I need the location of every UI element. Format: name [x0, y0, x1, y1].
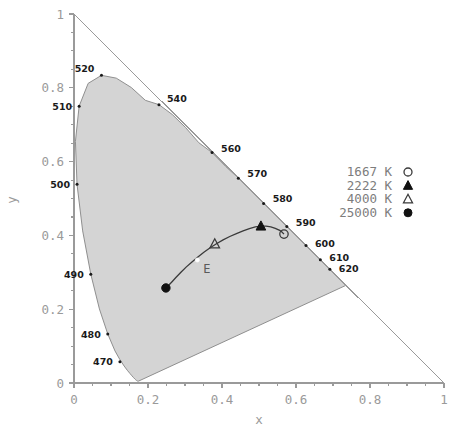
- data-marker-25000-k: [162, 284, 170, 292]
- wavelength-label: 560: [221, 143, 241, 154]
- wavelength-label: 490: [64, 269, 84, 280]
- wavelength-tick-dot: [262, 202, 265, 205]
- wavelength-label: 570: [247, 168, 267, 179]
- legend-marker-open-triangle: [403, 194, 412, 203]
- wavelength-tick-dot: [78, 105, 81, 108]
- legend: 1667 K2222 K4000 K25000 K: [339, 164, 412, 220]
- wavelength-tick-dot: [237, 177, 240, 180]
- wavelength-label: 580: [273, 193, 293, 204]
- wavelength-label: 520: [75, 63, 95, 74]
- wavelength-tick-dot: [100, 74, 103, 77]
- y-tick-label: 0.2: [41, 302, 64, 317]
- chromaticity-diagram-figure: 00.20.40.60.8100.20.40.60.81 47048049050…: [0, 0, 462, 435]
- wavelength-label: 480: [81, 329, 101, 340]
- legend-marker-open-circle: [404, 168, 412, 176]
- x-axis-title: x: [255, 412, 263, 427]
- y-tick-label: 0.4: [41, 228, 64, 243]
- white-point-marker: [195, 258, 199, 262]
- wavelength-tick-dot: [157, 103, 160, 106]
- x-tick-label: 0.6: [285, 392, 308, 407]
- wavelength-label: 500: [50, 179, 70, 190]
- wavelength-tick-dot: [89, 273, 92, 276]
- wavelength-label: 510: [52, 101, 72, 112]
- wavelength-tick-dot: [285, 225, 288, 228]
- wavelength-label: 600: [315, 238, 335, 249]
- y-tick-label: 1: [56, 7, 64, 22]
- legend-label: 25000 K: [339, 205, 392, 220]
- wavelength-label: 540: [167, 93, 187, 104]
- x-tick-label: 1: [440, 392, 448, 407]
- y-tick-label: 0.8: [41, 80, 64, 95]
- wavelength-label: 620: [339, 263, 359, 274]
- wavelength-tick-dot: [304, 244, 307, 247]
- wavelength-tick-dot: [319, 258, 322, 261]
- x-tick-label: 0.8: [359, 392, 382, 407]
- legend-marker-filled-circle: [404, 209, 412, 217]
- wavelength-tick-dot: [106, 333, 109, 336]
- x-tick-label: 0.4: [211, 392, 234, 407]
- wavelength-tick-dot: [211, 151, 214, 154]
- y-axis-title: y: [4, 196, 19, 204]
- wavelength-tick-dot: [328, 268, 331, 271]
- y-tick-label: 0: [56, 376, 64, 391]
- cie-chromaticity-plot: 00.20.40.60.8100.20.40.60.81 47048049050…: [0, 0, 462, 435]
- x-tick-label: 0: [70, 392, 78, 407]
- wavelength-tick-dot: [76, 183, 79, 186]
- wavelength-label: 590: [296, 217, 316, 228]
- legend-marker-filled-triangle: [403, 181, 412, 190]
- wavelength-label: 470: [93, 356, 113, 367]
- x-tick-label: 0.2: [137, 392, 160, 407]
- y-tick-label: 0.6: [41, 154, 64, 169]
- white-point-label: E: [203, 262, 210, 276]
- wavelength-label: 610: [329, 252, 349, 263]
- wavelength-tick-dot: [118, 360, 121, 363]
